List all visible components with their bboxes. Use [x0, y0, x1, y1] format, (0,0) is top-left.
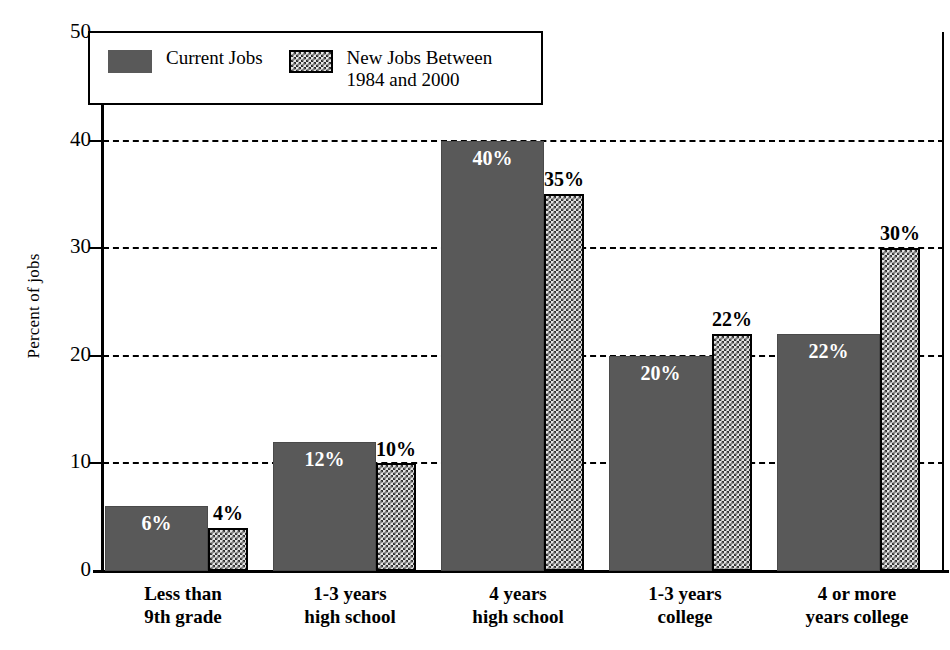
bar-newjobs-4 [712, 334, 752, 571]
bar-value-current-4: 20% [609, 363, 712, 383]
bar-current-5 [777, 334, 880, 571]
bar-value-current-1: 6% [105, 513, 208, 533]
y-axis-title: Percent of jobs [24, 206, 44, 406]
category-label-3: 4 years high school [435, 582, 601, 628]
bar-current-4 [609, 356, 712, 571]
bars-layer: 6% 4% 12% 10% 40% 35% 20% 22% 22% 30% [103, 32, 944, 571]
y-tick-label: 20 [70, 344, 91, 365]
bar-newjobs-1 [208, 528, 248, 571]
category-label-5: 4 or more years college [767, 582, 947, 628]
bar-value-current-2: 12% [273, 449, 376, 469]
bar-newjobs-3 [544, 194, 584, 571]
bar-value-current-3: 40% [441, 148, 544, 168]
legend-entries: Current Jobs New Jobs Between 1984 and 2… [108, 47, 492, 92]
category-label-4: 1-3 years college [603, 582, 767, 628]
bar-value-newjobs-4: 22% [712, 309, 752, 329]
legend-label-new-jobs: New Jobs Between 1984 and 2000 [347, 47, 493, 92]
bar-value-newjobs-2: 10% [376, 439, 416, 459]
bar-chart: Percent of jobs 50 40 30 20 10 [0, 0, 950, 650]
category-label-1: Less than 9th grade [103, 582, 263, 628]
checkered-swatch-icon [289, 50, 333, 73]
bar-value-newjobs-3: 35% [544, 169, 584, 189]
y-tick-label: 10 [70, 451, 91, 472]
y-tick-label: 40 [70, 129, 91, 150]
plot-area: 50 40 30 20 10 0 [103, 32, 944, 572]
legend-label-current-jobs: Current Jobs [166, 47, 263, 69]
bar-newjobs-5 [880, 248, 920, 571]
legend: Current Jobs New Jobs Between 1984 and 2… [88, 31, 543, 105]
bar-value-newjobs-5: 30% [880, 223, 920, 243]
x-axis-categories: Less than 9th grade 1-3 years high schoo… [103, 582, 944, 646]
category-label-2: 1-3 years high school [265, 582, 435, 628]
bar-current-3 [441, 141, 544, 571]
bar-newjobs-2 [376, 463, 416, 571]
y-tick-label: 30 [70, 236, 91, 257]
y-tick-label: 0 [81, 559, 92, 580]
bar-value-current-5: 22% [777, 341, 880, 361]
solid-gray-swatch-icon [108, 50, 152, 73]
bar-value-newjobs-1: 4% [208, 503, 248, 523]
